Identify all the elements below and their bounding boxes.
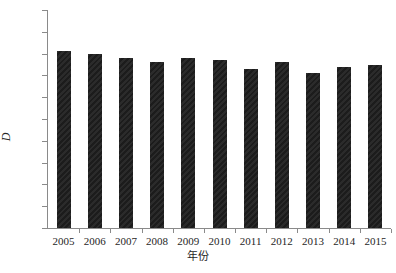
x-axis-tick-label: 2012 [266, 236, 297, 247]
y-axis-tick [42, 228, 47, 229]
x-axis-tick [235, 229, 236, 233]
x-axis-tick-label: 2005 [48, 236, 79, 247]
bar [337, 67, 351, 228]
bar [244, 69, 258, 228]
x-axis-tick [391, 229, 392, 233]
x-axis-tick [360, 229, 361, 233]
bar [213, 60, 227, 228]
y-axis-tick [42, 97, 47, 98]
y-axis-title: D [0, 132, 12, 141]
x-axis-tick [142, 229, 143, 233]
bar [150, 62, 164, 228]
bar [368, 65, 382, 229]
x-axis-tick-label: 2008 [142, 236, 173, 247]
y-axis-tick [42, 184, 47, 185]
x-axis-tick [329, 229, 330, 233]
bar [306, 73, 320, 228]
x-axis-tick [79, 229, 80, 233]
x-axis-tick [110, 229, 111, 233]
y-axis-tick [42, 32, 47, 33]
x-axis-tick-label: 2006 [79, 236, 110, 247]
y-axis-tick [42, 163, 47, 164]
x-axis-title: 年份 [0, 251, 396, 262]
y-axis-tick [42, 54, 47, 55]
bar [119, 58, 133, 228]
x-axis-tick [204, 229, 205, 233]
x-axis-tick-label: 2010 [204, 236, 235, 247]
y-axis-tick [42, 141, 47, 142]
y-axis-tick [42, 10, 47, 11]
x-axis-tick-label: 2015 [360, 236, 391, 247]
y-axis-tick [42, 206, 47, 207]
bar [88, 54, 102, 228]
plot-area [48, 10, 391, 228]
x-axis-tick-label: 2009 [173, 236, 204, 247]
x-axis-tick [173, 229, 174, 233]
bar [181, 58, 195, 228]
y-axis-tick [42, 75, 47, 76]
x-axis-line [47, 228, 391, 229]
bar-chart-figure: 00.10.20.30.40.50.60.70.80.91 2005200620… [0, 0, 396, 273]
bar [57, 51, 71, 228]
x-axis-tick-label: 2013 [297, 236, 328, 247]
bar [275, 62, 289, 228]
x-axis-tick [266, 229, 267, 233]
x-axis-tick-label: 2011 [235, 236, 266, 247]
y-axis-tick [42, 119, 47, 120]
x-axis-tick [297, 229, 298, 233]
x-axis-tick-label: 2014 [329, 236, 360, 247]
x-axis-tick-label: 2007 [110, 236, 141, 247]
